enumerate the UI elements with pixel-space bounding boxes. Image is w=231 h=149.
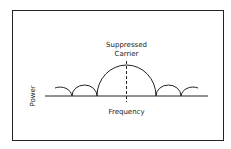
x-axis-label: Frequency [108, 108, 144, 116]
spectrum-diagram: Suppressed Carrier Frequency Power [0, 0, 231, 149]
carrier-label-line1: Suppressed [106, 41, 147, 49]
side-lobe-right-2 [181, 87, 198, 96]
y-axis-label: Power [29, 85, 37, 106]
side-lobe-left-1 [72, 85, 97, 96]
side-lobe-left-2 [55, 87, 72, 96]
side-lobe-right-1 [156, 85, 181, 96]
carrier-label-line2: Carrier [115, 50, 139, 58]
